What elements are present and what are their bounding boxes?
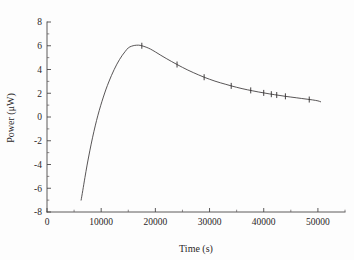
data-markers-group <box>142 43 309 103</box>
x-tick-label: 0 <box>45 217 50 227</box>
x-tick-label: 40000 <box>252 217 276 227</box>
x-axis-title: Time (s) <box>179 243 213 255</box>
tick-labels-group: 01000020000300004000050000-8-6-4-202468 <box>34 17 330 227</box>
chart-figure: 01000020000300004000050000-8-6-4-202468 … <box>0 0 354 260</box>
y-tick-label: 2 <box>37 89 42 99</box>
x-tick-label: 50000 <box>306 217 330 227</box>
data-curve <box>81 45 320 200</box>
y-tick-label: 6 <box>37 41 42 51</box>
y-axis-title: Power (μW) <box>5 93 17 143</box>
y-tick-label: -2 <box>34 136 42 146</box>
data-curve-group <box>81 45 320 200</box>
y-tick-label: -8 <box>34 207 42 217</box>
y-tick-label: 4 <box>37 65 42 75</box>
power-vs-time-plot: 01000020000300004000050000-8-6-4-202468 … <box>0 0 354 260</box>
axes-group <box>47 22 345 212</box>
y-tick-label: -6 <box>34 184 42 194</box>
x-tick-label: 20000 <box>143 217 167 227</box>
x-tick-label: 10000 <box>89 217 113 227</box>
ticks-group <box>47 22 345 212</box>
y-tick-label: -4 <box>34 160 42 170</box>
x-tick-label: 30000 <box>198 217 222 227</box>
y-tick-label: 8 <box>37 17 42 27</box>
y-tick-label: 0 <box>37 112 42 122</box>
